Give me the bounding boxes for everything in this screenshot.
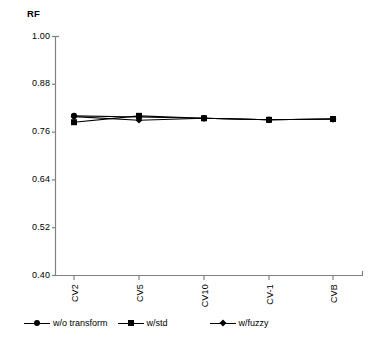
- legend-item-2[interactable]: w/fuzzy: [210, 318, 269, 328]
- series-layer: [71, 113, 337, 125]
- chart-container: RF 1.00 0.88 0.76 0.64 0.52 0.40: [0, 0, 386, 346]
- data-point: [71, 119, 77, 125]
- diamond-marker-icon: [210, 319, 236, 328]
- x-tick-label-4: CVB: [329, 284, 339, 303]
- legend-label-2: w/fuzzy: [239, 318, 269, 328]
- circle-marker-icon: [24, 319, 50, 328]
- square-marker-icon: [118, 319, 144, 328]
- series-w-fuzzy: [71, 113, 337, 123]
- legend-item-0[interactable]: w/o transform: [24, 318, 108, 328]
- legend-item-1[interactable]: w/std: [118, 318, 168, 328]
- x-tick-label-3: CV-1: [265, 284, 275, 305]
- x-axis-ticks: [74, 276, 333, 281]
- x-tick-label-0: CV2: [70, 284, 80, 302]
- legend-label-1: w/std: [147, 318, 168, 328]
- legend-label-0: w/o transform: [53, 318, 108, 328]
- x-tick-label-1: CV5: [135, 284, 145, 302]
- x-tick-label-2: CV10: [200, 284, 210, 307]
- chart-legend: w/o transform w/std w/fuzzy: [24, 318, 269, 328]
